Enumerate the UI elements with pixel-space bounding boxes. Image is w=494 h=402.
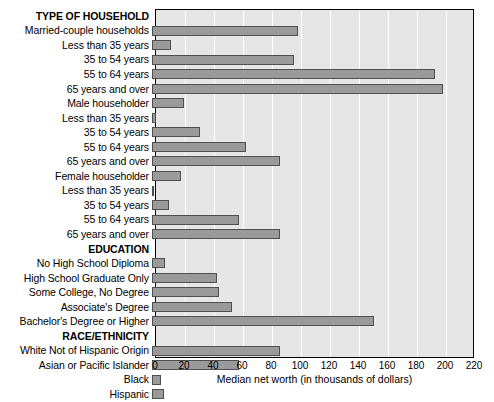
chart-row: 35 to 54 years xyxy=(0,198,474,213)
row-label: 55 to 64 years xyxy=(0,214,152,225)
bar xyxy=(152,186,154,196)
chart-row: White Not of Hispanic Origin xyxy=(0,344,474,359)
row-track xyxy=(152,387,471,402)
row-label: Less than 35 years xyxy=(0,185,152,196)
x-axis-ticks: 020406080100120140160180200220 xyxy=(155,358,474,372)
row-label: 65 years and over xyxy=(0,229,152,240)
row-label: 65 years and over xyxy=(0,156,152,167)
row-track xyxy=(152,329,471,344)
bar xyxy=(152,98,184,108)
row-label: Asian or Pacific Islander xyxy=(0,360,152,371)
bar xyxy=(152,229,280,239)
row-label: Less than 35 years xyxy=(0,113,152,124)
section-header-row: RACE/ETHNICITY xyxy=(0,329,474,344)
row-track xyxy=(152,300,471,315)
row-label: Some College, No Degree xyxy=(0,287,152,298)
chart-row: Bachelor's Degree or Higher xyxy=(0,314,474,329)
chart-row: Less than 35 years xyxy=(0,38,474,53)
x-tick-label-220: 220 xyxy=(466,360,483,371)
bar xyxy=(152,26,298,36)
row-track xyxy=(152,256,471,271)
section-header-row: EDUCATION xyxy=(0,242,474,257)
chart-row: High School Graduate Only xyxy=(0,271,474,286)
bar xyxy=(152,389,164,399)
row-label: High School Graduate Only xyxy=(0,273,152,284)
row-track xyxy=(152,344,471,359)
bar xyxy=(152,316,374,326)
row-label: 55 to 64 years xyxy=(0,69,152,80)
x-tick-label-180: 180 xyxy=(408,360,425,371)
bar xyxy=(152,171,181,181)
row-track xyxy=(152,82,471,97)
chart-row: 35 to 54 years xyxy=(0,125,474,140)
row-label: 35 to 54 years xyxy=(0,127,152,138)
row-label: Associate's Degree xyxy=(0,302,152,313)
row-track xyxy=(152,154,471,169)
row-label: 65 years and over xyxy=(0,84,152,95)
row-track xyxy=(152,242,471,257)
bar xyxy=(152,200,169,210)
chart-row: 35 to 54 years xyxy=(0,53,474,68)
row-label: 55 to 64 years xyxy=(0,142,152,153)
x-tick-label-60: 60 xyxy=(236,360,247,371)
row-track xyxy=(152,24,471,39)
bar xyxy=(152,302,232,312)
bar xyxy=(152,258,165,268)
row-label: Hispanic xyxy=(0,389,152,400)
chart-row: 65 years and over xyxy=(0,154,474,169)
chart-row: Married-couple households xyxy=(0,24,474,39)
chart-row: 65 years and over xyxy=(0,82,474,97)
row-track xyxy=(152,198,471,213)
bar xyxy=(152,40,171,50)
chart-row: Hispanic xyxy=(0,387,474,402)
bar xyxy=(152,69,435,79)
row-track xyxy=(152,285,471,300)
row-label: 35 to 54 years xyxy=(0,200,152,211)
chart-row: Less than 35 years xyxy=(0,184,474,199)
chart-row: No High School Diploma xyxy=(0,256,474,271)
row-label: 35 to 54 years xyxy=(0,54,152,65)
chart-row: Some College, No Degree xyxy=(0,285,474,300)
bar xyxy=(152,113,156,123)
chart-rows: TYPE OF HOUSEHOLDMarried-couple househol… xyxy=(0,9,474,402)
row-label: White Not of Hispanic Origin xyxy=(0,345,152,356)
row-track xyxy=(152,38,471,53)
x-tick-label-200: 200 xyxy=(437,360,454,371)
row-track xyxy=(152,271,471,286)
row-track xyxy=(152,125,471,140)
row-track xyxy=(152,96,471,111)
x-tick-label-80: 80 xyxy=(265,360,276,371)
row-label: Female householder xyxy=(0,171,152,182)
row-track xyxy=(152,67,471,82)
row-track xyxy=(152,111,471,126)
x-tick-label-20: 20 xyxy=(178,360,189,371)
bar xyxy=(152,346,280,356)
bar xyxy=(152,273,217,283)
section-header-label: TYPE OF HOUSEHOLD xyxy=(0,11,152,22)
x-tick-label-100: 100 xyxy=(292,360,309,371)
x-tick-label-160: 160 xyxy=(379,360,396,371)
chart-row: 55 to 64 years xyxy=(0,213,474,228)
x-tick-label-120: 120 xyxy=(321,360,338,371)
row-track xyxy=(152,169,471,184)
chart-row: Associate's Degree xyxy=(0,300,474,315)
bar xyxy=(152,215,239,225)
x-tick-label-140: 140 xyxy=(350,360,367,371)
chart-row: Male householder xyxy=(0,96,474,111)
row-label: Black xyxy=(0,374,152,385)
row-track xyxy=(152,314,471,329)
row-track xyxy=(152,184,471,199)
row-label: Less than 35 years xyxy=(0,40,152,51)
chart-row: Less than 35 years xyxy=(0,111,474,126)
bar xyxy=(152,287,219,297)
row-track xyxy=(152,227,471,242)
section-header-label: RACE/ETHNICITY xyxy=(0,331,152,342)
section-header-row: TYPE OF HOUSEHOLD xyxy=(0,9,474,24)
row-label: Male householder xyxy=(0,98,152,109)
row-track xyxy=(152,213,471,228)
section-header-label: EDUCATION xyxy=(0,244,152,255)
row-label: No High School Diploma xyxy=(0,258,152,269)
x-tick-label-0: 0 xyxy=(152,360,158,371)
row-track xyxy=(152,9,471,24)
